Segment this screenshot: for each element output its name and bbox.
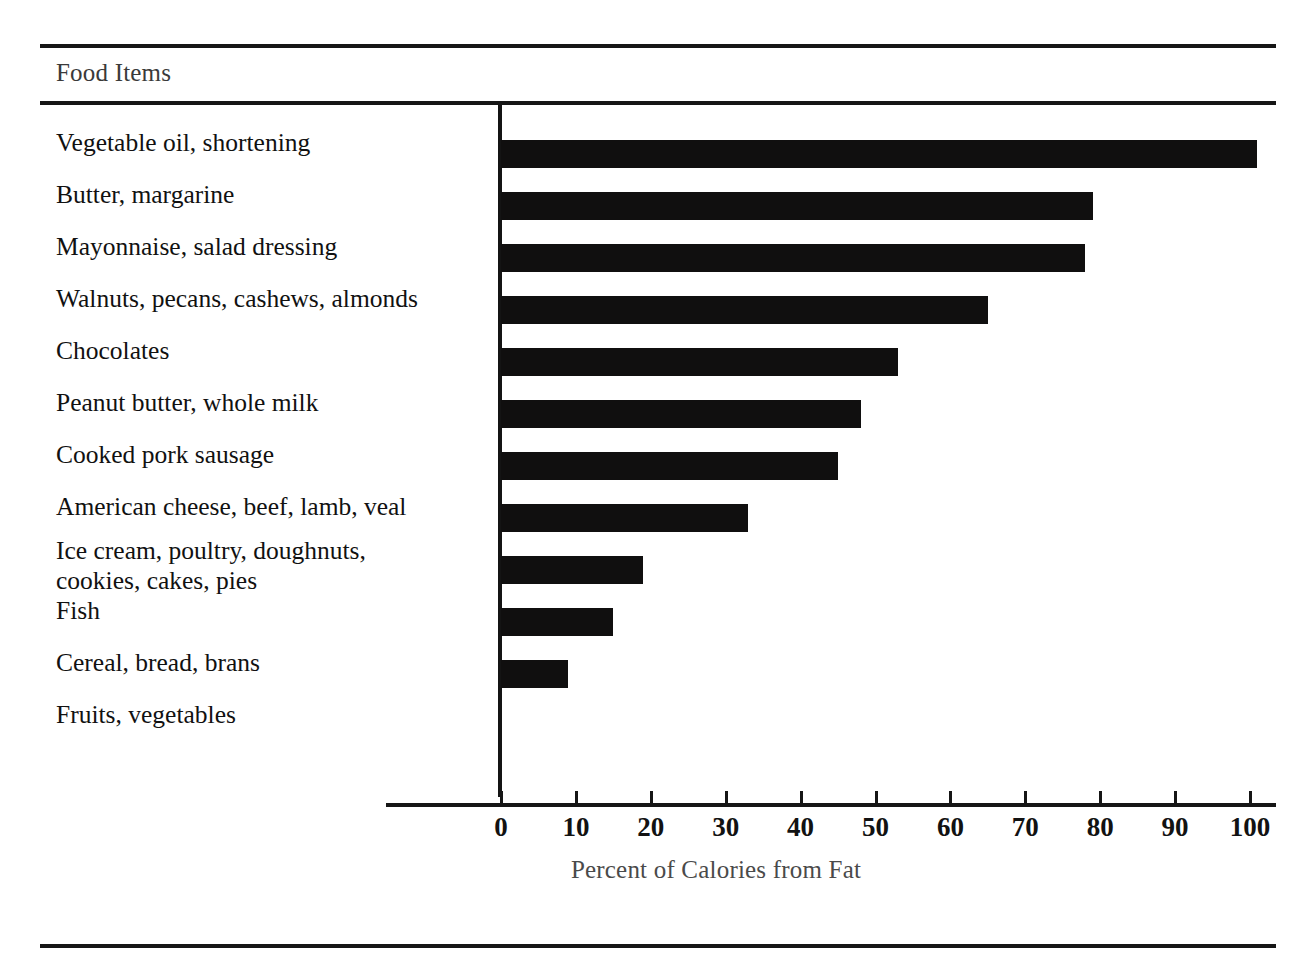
- bar: [501, 348, 898, 376]
- top-rule: [40, 44, 1276, 48]
- x-axis-title-text: Percent of Calories from Fat: [571, 856, 861, 884]
- x-tick-label: 0: [494, 812, 508, 843]
- bar-row-label: Butter, margarine: [56, 180, 486, 210]
- bar: [501, 140, 1257, 168]
- x-tick: [949, 791, 952, 804]
- bar-row-label: Mayonnaise, salad dressing: [56, 232, 486, 262]
- x-tick: [725, 791, 728, 804]
- bar-row-label: Chocolates: [56, 336, 486, 366]
- bar-row: Butter, margarine: [0, 180, 1314, 232]
- bar-row: Chocolates: [0, 336, 1314, 388]
- x-tick-label: 70: [1012, 812, 1039, 843]
- x-tick: [800, 791, 803, 804]
- x-tick-label: 10: [562, 812, 589, 843]
- x-tick: [575, 791, 578, 804]
- x-tick-label: 80: [1087, 812, 1114, 843]
- bar: [501, 296, 988, 324]
- x-axis-title: Percent of Calories from Fat: [0, 856, 1314, 884]
- x-tick: [875, 791, 878, 804]
- bar: [501, 556, 643, 584]
- x-tick: [500, 791, 503, 804]
- bar-row: Ice cream, poultry, doughnuts, cookies, …: [0, 544, 1314, 596]
- chart-page: Food Items Vegetable oil, shorteningButt…: [0, 0, 1314, 973]
- x-tick-label: 100: [1230, 812, 1271, 843]
- bar: [501, 608, 613, 636]
- bar: [501, 660, 568, 688]
- bar-row-label: Ice cream, poultry, doughnuts, cookies, …: [56, 536, 486, 596]
- x-tick-label: 60: [937, 812, 964, 843]
- bar: [501, 244, 1085, 272]
- x-tick: [1174, 791, 1177, 804]
- x-tick: [1024, 791, 1027, 804]
- x-tick-label: 40: [787, 812, 814, 843]
- bar-row: Vegetable oil, shortening: [0, 128, 1314, 180]
- x-tick: [1249, 791, 1252, 804]
- bar-row: Fruits, vegetables: [0, 700, 1314, 752]
- x-tick-label: 20: [637, 812, 664, 843]
- bar-row-label: Cereal, bread, brans: [56, 648, 486, 678]
- bar: [501, 504, 748, 532]
- bar-row: Peanut butter, whole milk: [0, 388, 1314, 440]
- bar: [501, 452, 838, 480]
- bar-row-label: Vegetable oil, shortening: [56, 128, 486, 158]
- bar-row-label: Cooked pork sausage: [56, 440, 486, 470]
- bar-row-label: American cheese, beef, lamb, veal: [56, 492, 486, 522]
- x-axis-line: [386, 803, 1276, 807]
- x-tick-label: 90: [1162, 812, 1189, 843]
- bar-row-label: Walnuts, pecans, cashews, almonds: [56, 284, 486, 314]
- bar-row: Walnuts, pecans, cashews, almonds: [0, 284, 1314, 336]
- bar-row-label: Peanut butter, whole milk: [56, 388, 486, 418]
- bar-row: Mayonnaise, salad dressing: [0, 232, 1314, 284]
- bar: [501, 192, 1093, 220]
- bar-row: Cooked pork sausage: [0, 440, 1314, 492]
- bottom-rule: [40, 944, 1276, 948]
- x-tick-label: 50: [862, 812, 889, 843]
- x-tick-label: 30: [712, 812, 739, 843]
- bar-row: Cereal, bread, brans: [0, 648, 1314, 700]
- bar-row: Fish: [0, 596, 1314, 648]
- x-tick: [650, 791, 653, 804]
- plot-area: Vegetable oil, shorteningButter, margari…: [0, 103, 1314, 803]
- bar: [501, 400, 861, 428]
- column-header-food-items: Food Items: [56, 59, 171, 87]
- x-tick: [1099, 791, 1102, 804]
- bar-row-label: Fruits, vegetables: [56, 700, 486, 730]
- bar-row-label: Fish: [56, 596, 486, 626]
